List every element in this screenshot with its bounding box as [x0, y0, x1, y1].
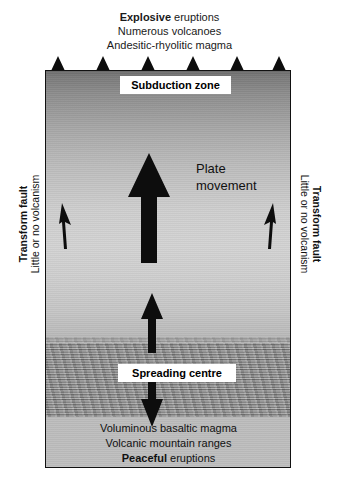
spreading-centre-label: Spreading centre — [118, 364, 236, 382]
small-up-arrow-right-icon — [262, 203, 276, 249]
plate-movement-line-2: movement — [196, 177, 257, 194]
caption-line-peaceful-eruptions: Peaceful eruptions — [46, 451, 291, 466]
caption-bold-peaceful: Peaceful — [122, 452, 167, 464]
left-transform-fault-title: Transform fault — [17, 186, 29, 262]
volcano-triangle-row — [45, 56, 291, 71]
medium-up-arrow-icon — [141, 293, 163, 353]
right-transform-fault-label: Transform fault Little or no volcanism — [299, 149, 323, 299]
right-transform-fault-title: Transform fault — [311, 186, 323, 262]
volcano-triangle-icon — [230, 56, 244, 71]
caption-line-explosive-eruptions: Explosive eruptions — [0, 10, 339, 24]
subduction-zone-label: Subduction zone — [120, 76, 231, 94]
volcano-triangle-icon — [272, 56, 286, 71]
caption-rest-eruptions: eruptions — [171, 11, 219, 23]
plate-movement-annotation: Plate movement — [196, 160, 257, 194]
left-transform-fault-subtitle: Little or no volcanism — [29, 175, 41, 274]
caption-line-numerous-volcanoes: Numerous volcanoes — [0, 24, 339, 38]
volcano-triangle-icon — [51, 56, 65, 71]
volcano-triangle-icon — [186, 56, 200, 71]
crust-cross-section — [45, 70, 291, 468]
caption-bold-explosive: Explosive — [120, 11, 171, 23]
top-caption-block: Explosive eruptions Numerous volcanoes A… — [0, 10, 339, 52]
bottom-caption-block: Voluminous basaltic magma Volcanic mount… — [46, 421, 291, 466]
caption-line-volcanic-mountain-ranges: Volcanic mountain ranges — [46, 436, 291, 451]
large-up-arrow-icon — [128, 153, 170, 263]
caption-line-andesitic-rhyolitic-magma: Andesitic-rhyolitic magma — [0, 38, 339, 52]
left-transform-fault-label: Transform fault Little or no volcanism — [17, 149, 41, 299]
volcano-triangle-icon — [141, 56, 155, 71]
right-transform-fault-subtitle: Little or no volcanism — [299, 175, 311, 274]
small-up-arrow-left-icon — [59, 203, 73, 249]
plate-movement-line-1: Plate — [196, 160, 257, 177]
volcano-triangle-icon — [96, 56, 110, 71]
caption-line-voluminous-basaltic-magma: Voluminous basaltic magma — [46, 421, 291, 436]
caption-rest-peaceful-eruptions: eruptions — [167, 452, 215, 464]
